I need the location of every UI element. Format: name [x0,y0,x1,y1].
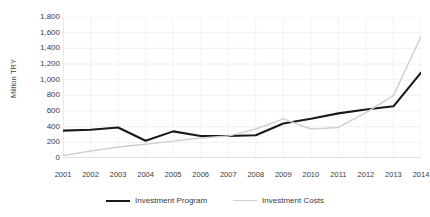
y-axis-tick-label: 200 [16,138,60,146]
x-axis-tick-label: 2004 [131,170,161,179]
plot-svg [63,17,421,158]
series-line-investment-costs [63,37,421,156]
x-axis-tick-label: 2014 [406,170,430,179]
y-axis-tick-label: 600 [16,107,60,115]
legend-label: Investment Costs [262,196,324,205]
x-axis-tick-label: 2006 [186,170,216,179]
legend-item[interactable]: Investment Program [106,196,207,205]
y-axis-tick-label: 1,400 [16,44,60,52]
x-axis-tick-label: 2005 [158,170,188,179]
legend-swatch-line-icon [233,200,257,201]
legend-label: Investment Program [135,196,207,205]
y-axis-tick-label: 1,000 [16,76,60,84]
x-axis-tick-label: 2012 [351,170,381,179]
y-axis-tick-label: 1,800 [16,13,60,21]
x-axis-tick-label: 2009 [268,170,298,179]
legend-item[interactable]: Investment Costs [233,196,324,205]
axis-lines [63,17,421,158]
y-axis-tick-label: 0 [16,154,60,162]
x-axis-tick-label: 2013 [378,170,408,179]
data-series [63,37,421,156]
x-axis-tick-label: 2001 [48,170,78,179]
x-axis-tick-label: 2010 [296,170,326,179]
y-axis-tick-label: 1,600 [16,29,60,37]
y-axis-tick-label: 800 [16,91,60,99]
plot-area [63,17,421,158]
y-axis-tick-labels: 02004006008001,0001,2001,4001,6001,800 [14,0,60,217]
gridlines [63,17,421,158]
series-line-investment-program [63,73,421,141]
x-axis-tick-label: 2008 [241,170,271,179]
x-axis-tick-label: 2003 [103,170,133,179]
x-axis-tick-label: 2002 [76,170,106,179]
x-axis-tick-label: 2007 [213,170,243,179]
x-axis-tick-label: 2011 [323,170,353,179]
y-axis-tick-label: 1,200 [16,60,60,68]
legend-swatch-line-icon [106,200,130,202]
line-chart: Million TRY 02004006008001,0001,2001,400… [0,0,430,217]
chart-legend: Investment ProgramInvestment Costs [0,196,430,205]
y-axis-tick-label: 400 [16,123,60,131]
